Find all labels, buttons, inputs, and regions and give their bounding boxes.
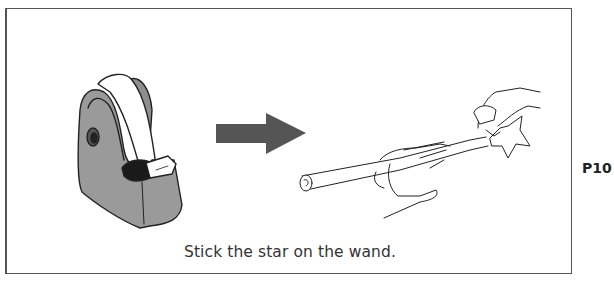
arrow-right-icon	[216, 113, 306, 154]
tape-dispenser-icon	[78, 74, 182, 228]
page-number: P10	[582, 160, 612, 176]
hands-wand-star-icon	[300, 88, 540, 218]
instruction-caption: Stick the star on the wand.	[0, 243, 580, 261]
